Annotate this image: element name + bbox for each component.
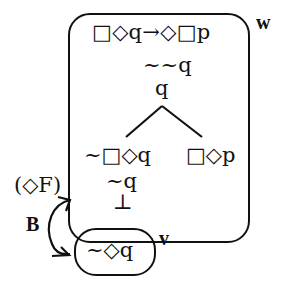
rule-annotation: (◇F): [14, 175, 61, 196]
tree-branch-right: [162, 106, 202, 137]
relation-label: B: [26, 214, 39, 234]
world-v-content: ~◇q: [86, 240, 133, 261]
left-branch-formula: ~□◇q: [84, 145, 151, 166]
tree-branch-left: [126, 106, 162, 137]
world-v-label: v: [159, 228, 169, 248]
right-branch-formula: □◇p: [186, 145, 235, 166]
contradiction-symbol: ⊥: [113, 192, 133, 213]
negated-q-formula: ~q: [106, 171, 137, 192]
